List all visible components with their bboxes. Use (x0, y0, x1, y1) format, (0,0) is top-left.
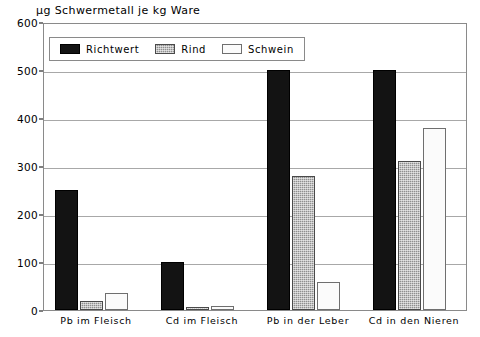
legend-label-schwein: Schwein (248, 44, 294, 55)
legend-item-schwein: Schwein (222, 44, 294, 55)
x-axis-label-0: Pb im Fleisch (60, 315, 132, 326)
legend-swatch-schwein (222, 44, 242, 54)
y-tick-label-0: 0 (0, 305, 38, 317)
legend-swatch-richtwert (60, 44, 80, 54)
y-tick-label-300: 300 (0, 161, 38, 173)
bars-layer (44, 24, 466, 310)
bar-rind-1 (186, 307, 209, 310)
y-tick-label-100: 100 (0, 257, 38, 269)
chart-legend: RichtwertRindSchwein (49, 37, 305, 61)
legend-item-richtwert: Richtwert (60, 44, 139, 55)
bar-schwein-3 (423, 128, 446, 310)
bar-rind-3 (398, 161, 421, 310)
bar-richtwert-2 (267, 70, 290, 310)
x-axis-label-1: Cd im Fleisch (166, 315, 238, 326)
bar-richtwert-3 (373, 70, 396, 310)
x-axis-label-3: Cd in den Nieren (369, 315, 460, 326)
legend-label-rind: Rind (181, 44, 206, 55)
y-tick-label-600: 600 (0, 17, 38, 29)
legend-item-rind: Rind (155, 44, 206, 55)
y-tick-label-400: 400 (0, 113, 38, 125)
bar-richtwert-0 (55, 190, 78, 310)
x-axis-labels: Pb im FleischCd im FleischPb in der Lebe… (43, 315, 467, 335)
chart-title: µg Schwermetall je kg Ware (36, 4, 200, 17)
bar-schwein-0 (105, 293, 128, 310)
x-axis-label-2: Pb in der Leber (267, 315, 350, 326)
bar-chart: µg Schwermetall je kg Ware 0100200300400… (0, 0, 480, 337)
plot-area (43, 23, 467, 311)
bar-schwein-1 (211, 306, 234, 310)
bar-richtwert-1 (161, 262, 184, 310)
bar-rind-0 (80, 301, 103, 310)
y-tick-label-200: 200 (0, 209, 38, 221)
legend-swatch-rind (155, 44, 175, 54)
y-tick-label-500: 500 (0, 65, 38, 77)
bar-rind-2 (292, 176, 315, 310)
legend-label-richtwert: Richtwert (86, 44, 139, 55)
bar-schwein-2 (317, 282, 340, 310)
